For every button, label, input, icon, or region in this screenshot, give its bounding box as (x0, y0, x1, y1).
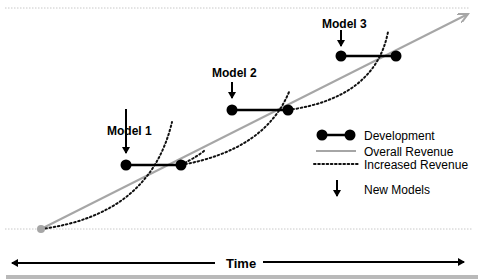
model-3-start-dot (336, 51, 347, 62)
model-1-start-dot (121, 160, 132, 171)
model-3-label: Model 3 (322, 17, 367, 31)
model-1-label: Model 1 (107, 124, 152, 138)
legend-new-models-label: New Models (364, 183, 430, 197)
legend-development-label: Development (364, 129, 435, 143)
increased-revenue-curve-2 (288, 32, 388, 110)
legend-overall-revenue-label: Overall Revenue (364, 145, 454, 159)
legend: Development Overall Revenue Increased Re… (314, 129, 468, 197)
model-2-end-dot (283, 105, 294, 116)
increased-revenue-curve-1b (181, 92, 289, 165)
model-1-end-dot (176, 160, 187, 171)
model-3-end-dot (391, 51, 402, 62)
legend-increased-revenue-label: Increased Revenue (364, 158, 468, 172)
increased-revenue-curves (41, 32, 388, 229)
bottom-border-bar (6, 275, 478, 279)
time-axis-label: Time (226, 256, 256, 271)
time-axis: Time (12, 256, 464, 271)
increased-revenue-curve-1 (41, 122, 172, 229)
origin-point (37, 225, 45, 233)
model-3-group (336, 30, 402, 62)
model-2-group (227, 82, 294, 116)
model-2-label: Model 2 (212, 66, 257, 80)
revenue-model-diagram: Model 1 Model 2 Model 3 Development Over… (0, 0, 478, 279)
model-2-start-dot (227, 105, 238, 116)
